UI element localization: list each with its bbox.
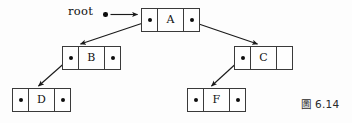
node-d-data-cell: D	[28, 89, 55, 111]
edge-a-to-b	[81, 22, 148, 45]
node-c-right-pointer-cell-null	[277, 47, 292, 69]
node-c-left-pointer-cell	[235, 47, 250, 69]
node-b-data-cell: B	[78, 47, 105, 69]
tree-node-d[interactable]: D	[12, 88, 71, 112]
node-b-right-pointer-cell	[105, 47, 120, 69]
pointer-dot	[236, 98, 240, 102]
binary-tree-linked-representation-figure: root A B C D	[0, 0, 352, 123]
figure-caption: 圖 6.14	[301, 96, 340, 111]
node-d-right-pointer-cell	[55, 89, 70, 111]
node-f-right-pointer-cell	[230, 89, 245, 111]
node-a-left-pointer-cell	[142, 9, 157, 31]
pointer-dot	[61, 98, 65, 102]
pointer-dot	[241, 56, 245, 60]
node-d-left-pointer-cell	[13, 89, 28, 111]
pointer-dot	[148, 18, 152, 22]
root-pointer-dot	[103, 12, 108, 17]
tree-node-a[interactable]: A	[141, 8, 200, 32]
tree-node-c[interactable]: C	[234, 46, 293, 70]
edge-a-to-c	[192, 22, 258, 45]
tree-node-b[interactable]: B	[62, 46, 121, 70]
node-a-right-pointer-cell	[184, 9, 199, 31]
root-label: root	[68, 4, 93, 18]
node-b-left-pointer-cell	[63, 47, 78, 69]
node-f-data-cell: F	[203, 89, 230, 111]
pointer-dot	[19, 98, 23, 102]
node-f-left-pointer-cell	[188, 89, 203, 111]
pointer-dot	[194, 98, 198, 102]
pointer-dot	[69, 56, 73, 60]
pointer-dot	[190, 18, 194, 22]
tree-node-f[interactable]: F	[187, 88, 246, 112]
node-c-data-cell: C	[250, 47, 277, 69]
pointer-dot	[111, 56, 115, 60]
node-a-data-cell: A	[157, 9, 184, 31]
